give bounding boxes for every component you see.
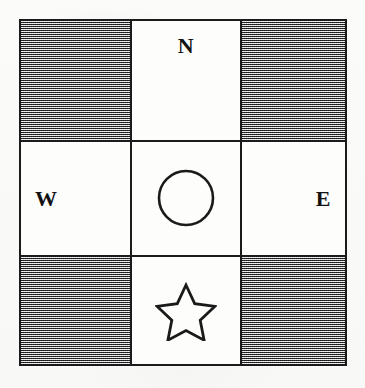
grid-cell-middle-center	[132, 142, 242, 257]
grid-cell-top-left	[21, 21, 132, 142]
circle-icon	[156, 168, 216, 228]
grid-cell-bottom-left	[21, 257, 132, 364]
grid-cell-middle-right: E	[242, 142, 345, 257]
compass-label-east: E	[316, 188, 331, 210]
star-icon	[155, 281, 217, 341]
grid-cell-bottom-center	[132, 257, 242, 364]
grid-cell-middle-left: W	[21, 142, 132, 257]
compass-label-north: N	[178, 35, 194, 57]
grid-cell-top-center: N	[132, 21, 242, 142]
grid-cell-top-right	[242, 21, 345, 142]
compass-quadrant-grid: N W E	[19, 19, 347, 366]
compass-label-west: W	[35, 188, 58, 210]
grid-cell-bottom-right	[242, 257, 345, 364]
